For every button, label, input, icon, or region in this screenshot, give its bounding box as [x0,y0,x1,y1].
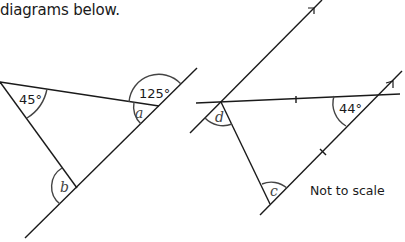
angle-label-d: d [215,109,224,125]
angle-label-c: c [270,183,278,199]
angle-label-b: b [60,179,69,195]
angle-label-125: 125° [139,86,170,101]
angle-label-45: 45° [19,92,42,107]
geometry-diagrams: 45° 125° a b 44° d c [0,0,405,242]
not-to-scale-note: Not to scale [310,183,385,198]
right-side-line [221,102,270,204]
upper-parallel-line [190,0,322,133]
angle-label-44: 44° [339,101,362,116]
angle-label-a: a [135,105,143,121]
